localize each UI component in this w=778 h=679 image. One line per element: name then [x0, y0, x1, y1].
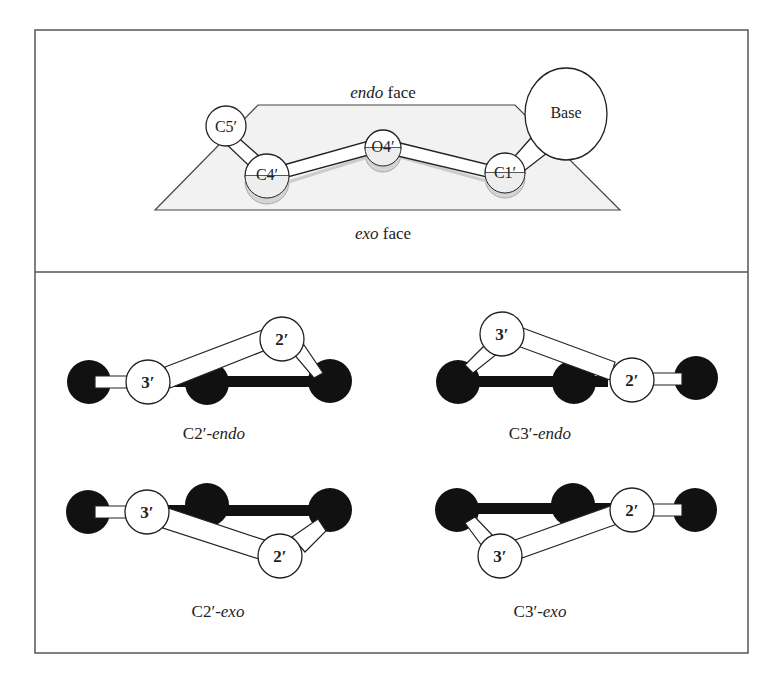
conformation-c3-endo: 3′ 2′ C3′-endo [436, 312, 718, 443]
atom-2-label: 2′ [275, 330, 288, 349]
conformation-label: C2′-endo [183, 424, 245, 443]
atom-3-label: 3′ [141, 373, 154, 392]
conformation-label: C3′-endo [509, 424, 571, 443]
ribose-plane-panel: endo face exo face C5′ C4′ [155, 68, 620, 243]
sugar-pucker-figure: endo face exo face C5′ C4′ [0, 0, 778, 679]
svg-text:C5′: C5′ [215, 118, 237, 135]
atom-3-label: 3′ [493, 547, 506, 566]
atom-base: Base [525, 68, 607, 160]
conformation-label: C3′-exo [514, 602, 567, 621]
atom-c1: C1′ [485, 153, 525, 193]
atom-2-label: 2′ [625, 371, 638, 390]
atom-c4: C4′ [245, 154, 289, 198]
conformation-label: C2′-exo [192, 602, 245, 621]
atom-c5: C5′ [206, 106, 246, 146]
atom-2-label: 2′ [273, 547, 286, 566]
svg-text:O4′: O4′ [371, 138, 394, 155]
conformation-c2-exo: 3′ 2′ C2′-exo [66, 483, 352, 621]
endo-face-label: endo face [350, 83, 416, 102]
svg-text:C1′: C1′ [494, 164, 516, 181]
svg-text:Base: Base [550, 104, 581, 121]
atom-2-label: 2′ [625, 501, 638, 520]
atom-3-label: 3′ [495, 325, 508, 344]
svg-text:C4′: C4′ [256, 166, 278, 183]
exo-face-label: exo face [355, 224, 411, 243]
atom-o4: O4′ [365, 130, 401, 166]
conformation-c3-exo: 3′ 2′ C3′-exo [435, 483, 717, 621]
atom-3-label: 3′ [140, 503, 153, 522]
conformation-c2-endo: 3′ 2′ C2′-endo [67, 317, 352, 443]
